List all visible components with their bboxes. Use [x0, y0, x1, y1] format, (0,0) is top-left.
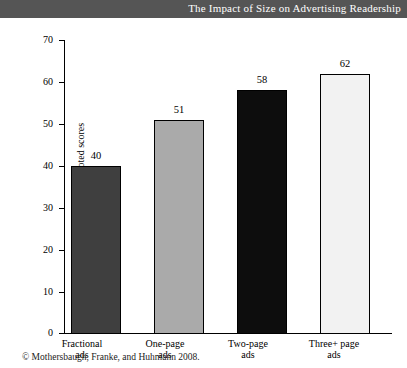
bar-one-page-ads[interactable] — [154, 120, 204, 334]
bar-two-page-ads[interactable] — [237, 90, 287, 334]
y-tick-label-20: 20 — [31, 244, 53, 255]
bar-three-plus-page-ads[interactable] — [320, 74, 370, 334]
chart-page: The Impact of Size on Advertising Reader… — [0, 0, 407, 368]
header-banner: The Impact of Size on Advertising Reader… — [0, 0, 407, 18]
plot-area: Average noted scores 40 51 58 62 — [64, 40, 392, 334]
y-tick-label-60: 60 — [31, 76, 53, 87]
x-tick-label-three-plus-page-ads: Three+ page ads — [298, 338, 370, 360]
y-tick-label-10: 10 — [31, 286, 53, 297]
source-note: © Mothersbaugh, Franke, and Huhmann 2008… — [22, 352, 200, 362]
bar-fractional-ads[interactable] — [71, 166, 121, 334]
x-tick-label-two-page-ads: Two-page ads — [217, 338, 279, 360]
bar-value-one-page-ads: 51 — [154, 104, 204, 115]
y-tick-label-0: 0 — [31, 327, 53, 338]
y-tick-label-40: 40 — [31, 160, 53, 171]
y-tick-label-70: 70 — [31, 34, 53, 45]
bar-value-three-plus-page-ads: 62 — [320, 58, 370, 69]
bar-value-fractional-ads: 40 — [71, 150, 121, 161]
bar-value-two-page-ads: 58 — [237, 74, 287, 85]
y-tick-label-50: 50 — [31, 118, 53, 129]
y-tick-label-30: 30 — [31, 202, 53, 213]
page-title: The Impact of Size on Advertising Reader… — [188, 2, 401, 14]
bar-chart: 70 60 50 40 30 20 10 0 Average noted sco… — [0, 18, 407, 368]
